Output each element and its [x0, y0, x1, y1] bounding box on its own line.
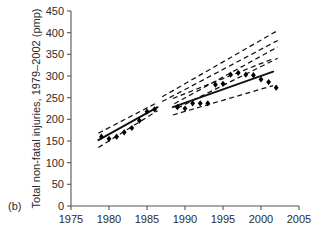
- data-point-marker: [274, 85, 279, 91]
- x-tick-label: 1990: [173, 213, 197, 225]
- x-tick-label: 1995: [211, 213, 235, 225]
- x-tick-label: 1975: [59, 213, 83, 225]
- x-axis-tick-labels: 1975198019851990199520002005: [59, 213, 311, 225]
- chart-canvas: 050100150200250300350400450 197519801985…: [0, 0, 328, 233]
- data-point-marker: [266, 79, 271, 85]
- y-tick-label: 50: [52, 178, 64, 190]
- panel-label: (b): [8, 200, 21, 212]
- x-tick-label: 2005: [287, 213, 311, 225]
- y-axis-title: Total non-fatal injuries, 1979–2002 (pmp…: [30, 9, 42, 209]
- x-tick-label: 1985: [135, 213, 159, 225]
- y-tick-label: 0: [58, 200, 64, 212]
- y-tick-label: 400: [46, 27, 64, 39]
- data-point-marker: [122, 129, 127, 135]
- data-point-marker: [236, 70, 241, 76]
- y-tick-label: 300: [46, 70, 64, 82]
- figure-panel: 050100150200250300350400450 197519801985…: [0, 0, 328, 233]
- y-tick-label: 100: [46, 157, 64, 169]
- y-tick-label: 250: [46, 92, 64, 104]
- confidence-interval-lines: [98, 31, 277, 148]
- data-point-marker: [221, 81, 226, 87]
- data-point-marker: [107, 136, 112, 142]
- data-point-markers: [99, 70, 279, 142]
- trend-line: [173, 72, 273, 108]
- y-axis-tick-labels: 050100150200250300350400450: [46, 5, 64, 212]
- data-point-marker: [183, 105, 188, 111]
- x-tick-label: 2000: [249, 213, 273, 225]
- data-point-marker: [129, 125, 134, 131]
- y-tick-label: 200: [46, 113, 64, 125]
- data-point-marker: [243, 72, 248, 78]
- ci-band-line: [162, 40, 278, 101]
- axis-tick-marks: [67, 11, 299, 210]
- x-tick-label: 1980: [97, 213, 121, 225]
- data-point-marker: [114, 134, 119, 140]
- data-point-marker: [198, 100, 203, 106]
- y-tick-label: 150: [46, 135, 64, 147]
- ci-band-line: [173, 59, 273, 99]
- y-tick-label: 450: [46, 5, 64, 17]
- y-tick-label: 350: [46, 48, 64, 60]
